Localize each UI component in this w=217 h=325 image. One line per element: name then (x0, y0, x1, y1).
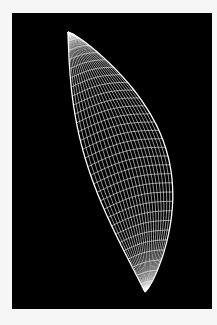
image-panel (12, 13, 212, 309)
wireframe-mesh (12, 13, 212, 309)
